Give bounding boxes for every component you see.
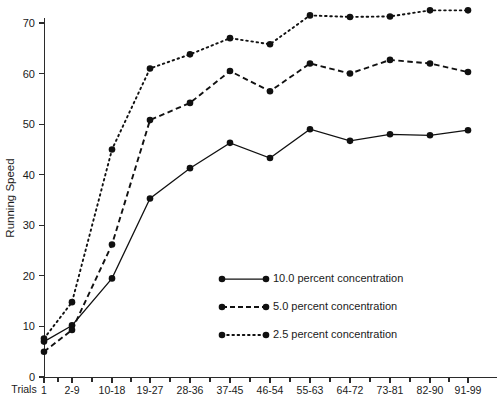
data-point [41, 335, 48, 342]
legend-label: 2.5 percent concentration [273, 328, 397, 340]
data-point [109, 241, 116, 248]
legend-item[interactable]: 5.0 percent concentration [219, 300, 397, 312]
x-axis-title: Trials [11, 383, 36, 395]
data-point [267, 88, 274, 95]
y-tick-label: 30 [23, 219, 35, 231]
legend-marker [263, 304, 270, 311]
data-point [347, 14, 354, 21]
line-chart: 010203040506070 Running Speed 12-910-181… [0, 0, 504, 402]
series-solid [41, 126, 472, 345]
data-point [347, 70, 354, 77]
data-point [147, 117, 154, 124]
data-point [227, 68, 234, 75]
series-dotted [41, 7, 472, 342]
data-point [109, 275, 116, 282]
data-point [387, 13, 394, 20]
series-line [44, 129, 468, 341]
data-point [387, 131, 394, 138]
legend-label: 10.0 percent concentration [273, 272, 403, 284]
x-tick-label: 10-18 [99, 384, 126, 396]
y-tick-label: 70 [23, 17, 35, 29]
y-tick-label: 10 [23, 320, 35, 332]
x-tick-label: 55-63 [297, 384, 324, 396]
y-tick-group: 010203040506070 [23, 17, 45, 383]
legend-marker [219, 276, 226, 283]
x-axis: 12-910-1819-2728-3637-4546-5455-6364-727… [11, 378, 497, 397]
data-point [387, 57, 394, 64]
x-tick-label: 1 [41, 384, 47, 396]
data-point [227, 140, 234, 147]
data-point [69, 299, 76, 306]
x-tick-label: 19-27 [137, 384, 164, 396]
data-point [465, 127, 472, 134]
legend-marker [219, 304, 226, 311]
legend-label: 5.0 percent concentration [273, 300, 397, 312]
y-tick-label: 0 [29, 371, 35, 383]
y-tick-label: 60 [23, 68, 35, 80]
data-point [187, 165, 194, 172]
x-tick-label: 28-36 [177, 384, 204, 396]
data-point [347, 138, 354, 145]
data-point [41, 348, 48, 355]
legend-marker [219, 332, 226, 339]
data-point [427, 60, 434, 67]
x-tick-label: 64-72 [337, 384, 364, 396]
data-point [187, 100, 194, 107]
x-tick-label: 37-45 [217, 384, 244, 396]
x-tick-group: 12-910-1819-2728-3637-4546-5455-6364-727… [41, 378, 482, 397]
y-tick-label: 40 [23, 169, 35, 181]
data-point [307, 126, 314, 133]
x-tick-label: 91-99 [455, 384, 482, 396]
x-tick-label: 2-9 [64, 384, 79, 396]
legend-marker [263, 332, 270, 339]
data-point [109, 146, 116, 153]
data-point [267, 41, 274, 48]
data-point [427, 7, 434, 14]
data-point [227, 35, 234, 42]
y-axis-title: Running Speed [4, 158, 16, 237]
y-tick-label: 50 [23, 118, 35, 130]
data-point [307, 60, 314, 67]
data-point [147, 195, 154, 202]
x-tick-label: 73-81 [377, 384, 404, 396]
series-line [44, 10, 468, 338]
series-layer [41, 7, 472, 355]
y-tick-label: 20 [23, 270, 35, 282]
data-point [307, 12, 314, 19]
x-tick-label: 46-54 [257, 384, 284, 396]
data-point [187, 51, 194, 58]
x-tick-label: 82-90 [417, 384, 444, 396]
data-point [69, 327, 76, 334]
chart-container: 010203040506070 Running Speed 12-910-181… [0, 0, 504, 402]
data-point [427, 132, 434, 139]
data-point [465, 7, 472, 14]
legend-marker [263, 276, 270, 283]
chart-legend: 10.0 percent concentration5.0 percent co… [219, 272, 404, 340]
y-axis: 010203040506070 Running Speed [4, 17, 45, 383]
data-point [147, 65, 154, 72]
data-point [267, 155, 274, 162]
legend-item[interactable]: 2.5 percent concentration [219, 328, 397, 340]
legend-item[interactable]: 10.0 percent concentration [219, 272, 404, 284]
data-point [465, 69, 472, 76]
series-dashed [41, 57, 472, 355]
